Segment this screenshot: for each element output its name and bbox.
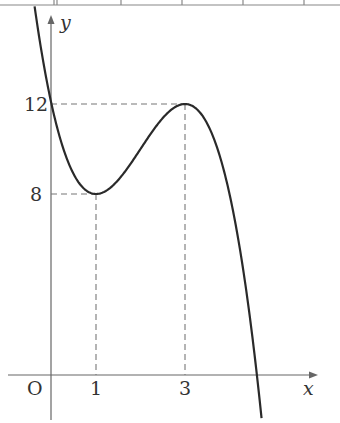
guide-lines bbox=[51, 104, 185, 375]
x-tick-label-3: 3 bbox=[179, 377, 191, 399]
table-border-remnant bbox=[0, 0, 340, 5]
y-axis-label: y bbox=[59, 11, 71, 33]
y-axis-arrow-icon bbox=[48, 15, 55, 24]
function-graph: y x O 1 3 8 12 bbox=[0, 0, 340, 423]
x-axis-label: x bbox=[303, 377, 314, 399]
origin-label: O bbox=[27, 377, 43, 399]
cubic-curve bbox=[35, 6, 262, 418]
axes bbox=[8, 15, 318, 420]
y-tick-label-12: 12 bbox=[24, 93, 48, 115]
x-tick-label-1: 1 bbox=[90, 377, 102, 399]
y-tick-label-8: 8 bbox=[30, 183, 42, 205]
